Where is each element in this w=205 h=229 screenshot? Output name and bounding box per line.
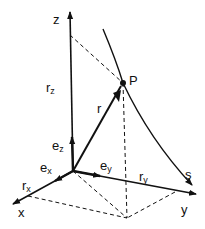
curve-s (103, 29, 192, 185)
x-axis-label: x (18, 205, 25, 220)
construction-lines (28, 35, 175, 218)
z-axis-label: z (53, 12, 60, 27)
e-z-vector (72, 137, 73, 171)
point-p-label: P (129, 73, 138, 88)
r-x-label: rx (22, 178, 31, 194)
position-vector-r (73, 86, 121, 171)
position-vector-label: r (97, 101, 102, 116)
y-axis-label: y (181, 202, 188, 217)
e-y-label: ey (100, 158, 112, 174)
point-p (120, 80, 126, 86)
e-y-vector (73, 171, 100, 176)
r-z-label: rz (46, 80, 55, 96)
coordinate-diagram: z x y P s r rz ez ex rx ey ry (0, 0, 205, 229)
e-x-vector (55, 171, 73, 181)
e-x-label: ex (40, 160, 52, 176)
r-y-label: ry (139, 169, 148, 185)
curve-s-label: s (185, 167, 192, 182)
e-z-label: ez (52, 138, 64, 154)
r-arrowhead (113, 90, 121, 102)
